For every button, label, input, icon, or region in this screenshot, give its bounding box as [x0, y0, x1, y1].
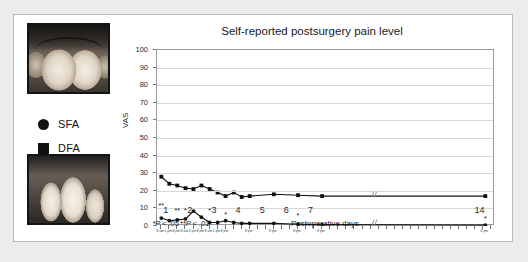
- x-day-tick-label: 5: [260, 205, 265, 215]
- data-point-dfa: [184, 186, 188, 190]
- x-minor-tick-label: 8 am: [205, 229, 213, 233]
- legend-item-dfa: DFA: [38, 136, 108, 160]
- y-tick-mark: [153, 119, 156, 120]
- x-day-tick-label: 6: [284, 205, 289, 215]
- y-tick-mark: [153, 207, 156, 208]
- gridline: [157, 138, 493, 139]
- data-point-dfa: [175, 184, 179, 188]
- y-tick-mark: [153, 190, 156, 191]
- y-tick-mark: [153, 49, 156, 50]
- legend-label-dfa: DFA: [58, 142, 80, 154]
- y-tick-label: 60: [140, 115, 148, 124]
- gridline: [157, 156, 493, 157]
- y-tick-mark: [153, 67, 156, 68]
- x-minor-tick-label: 8 pm: [221, 229, 229, 233]
- gridline: [157, 120, 493, 121]
- y-tick-label: 50: [140, 133, 148, 142]
- data-point-dfa: [483, 194, 487, 198]
- gridline: [157, 103, 493, 104]
- x-minor-tick-label: 8 pm: [481, 229, 489, 233]
- y-tick-label: 100: [135, 45, 148, 54]
- legend-item-sfa: SFA: [38, 112, 108, 136]
- significance-mark: **: [175, 207, 180, 214]
- footnote: **P < .01: [180, 219, 210, 228]
- data-point-dfa: [167, 182, 171, 186]
- x-minor-tick-label: 8 pm: [317, 229, 325, 233]
- data-point-dfa: [200, 184, 204, 188]
- significance-mark: *: [297, 212, 300, 219]
- y-tick-label: 40: [140, 150, 148, 159]
- x-minor-tick-label: 8 am: [157, 229, 165, 233]
- data-point-dfa: [159, 175, 163, 179]
- gridline: [157, 68, 493, 69]
- x-minor-tick-label: 8 am: [181, 229, 189, 233]
- chart-legend: SFA DFA: [38, 112, 108, 160]
- series-line-dfa: [161, 177, 485, 197]
- pain-level-chart: Self-reported postsurgery pain level VAS…: [122, 23, 502, 235]
- preoperative-clinical-photo: [27, 23, 110, 94]
- y-axis-label: VAS: [121, 113, 130, 128]
- data-point-dfa: [240, 195, 244, 199]
- x-minor-tick-label: 8 pm: [245, 229, 253, 233]
- y-tick-label: 30: [140, 168, 148, 177]
- postoperative-clinical-photo: [27, 154, 110, 225]
- data-point-dfa: [296, 193, 300, 197]
- gridline: [157, 191, 493, 192]
- x-day-tick-label: 7: [308, 205, 313, 215]
- legend-label-sfa: SFA: [58, 118, 79, 130]
- chart-title: Self-reported postsurgery pain level: [122, 25, 502, 37]
- y-tick-mark: [153, 172, 156, 173]
- y-tick-label: 70: [140, 97, 148, 106]
- footnote: *P < .05: [152, 219, 179, 228]
- x-minor-tick-label: 8 pm: [197, 229, 205, 233]
- x-minor-tick-label: 8 pm: [269, 229, 277, 233]
- x-minor-tick-label: 8 pm: [172, 229, 180, 233]
- y-tick-label: 80: [140, 80, 148, 89]
- x-day-tick-label: 2: [187, 205, 192, 215]
- circle-marker-icon: [38, 119, 49, 130]
- x-minor-tick-label: 1 pm: [189, 229, 197, 233]
- y-tick-mark: [153, 155, 156, 156]
- x-minor-tick-label: 8 pm: [293, 229, 301, 233]
- y-tick-mark: [153, 84, 156, 85]
- data-point-dfa: [320, 194, 324, 198]
- data-point-dfa: [248, 194, 252, 198]
- y-tick-mark: [153, 137, 156, 138]
- gridline: [157, 173, 493, 174]
- square-marker-icon: [38, 143, 49, 154]
- plot-area: *********: [156, 49, 494, 225]
- x-day-tick-label: 4: [236, 205, 241, 215]
- x-minor-tick-label: 1 pm: [213, 229, 221, 233]
- figure-card: SFA DFA Self-reported postsurgery pain l…: [13, 14, 513, 242]
- significance-mark: *: [224, 211, 227, 218]
- y-tick-label: 10: [140, 203, 148, 212]
- y-tick-mark: [153, 102, 156, 103]
- y-tick-label: 20: [140, 185, 148, 194]
- data-point-dfa: [272, 192, 276, 196]
- x-day-tick-label: 3: [211, 205, 216, 215]
- gridline: [157, 85, 493, 86]
- y-tick-label: 90: [140, 62, 148, 71]
- y-tick-label: 0: [144, 221, 148, 230]
- x-day-tick-label: 1: [163, 205, 168, 215]
- x-day-tick-label: 14: [474, 205, 484, 215]
- x-minor-tick-label: 1 pm: [165, 229, 173, 233]
- data-point-dfa: [224, 194, 228, 198]
